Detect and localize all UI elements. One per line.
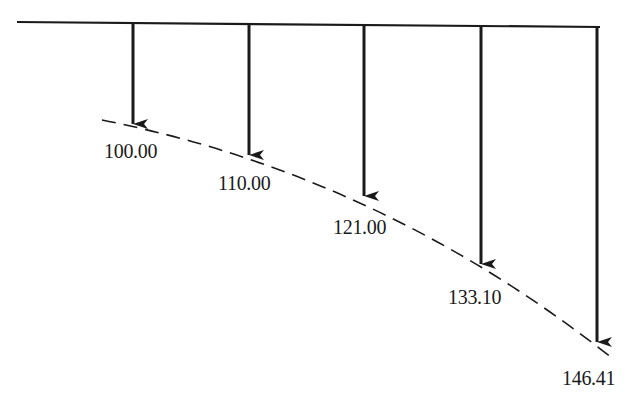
value-label-0: 100.00	[104, 141, 157, 161]
value-label-2: 121.00	[333, 217, 386, 237]
time-line	[17, 22, 600, 27]
value-label-4: 146.41	[562, 368, 615, 388]
value-label-3: 133.10	[448, 287, 501, 307]
value-label-1: 110.00	[218, 173, 270, 193]
value-arrows	[133, 23, 597, 342]
growth-curve-dashed	[102, 120, 612, 358]
compound-growth-diagram	[0, 0, 626, 397]
